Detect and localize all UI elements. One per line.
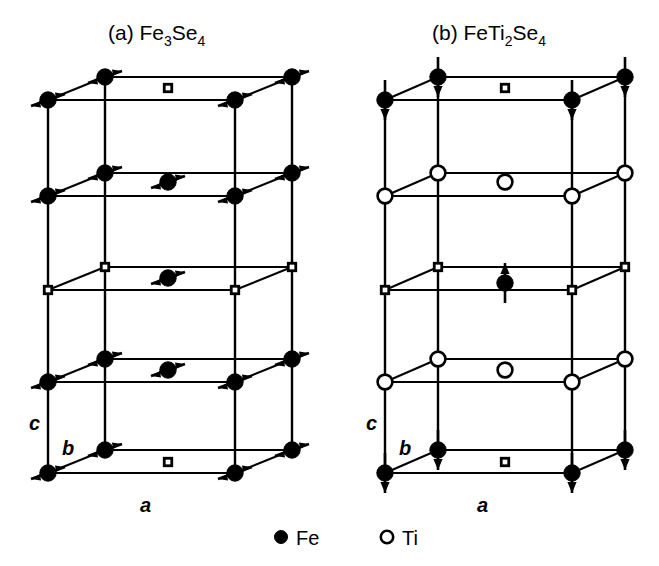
panel-b-site-layer3-back-left-ti-atom	[431, 352, 446, 367]
panel-b-site-layer2-back-right-vacancy-marker	[621, 263, 629, 271]
panel-a-title-part-0: (a) Fe	[108, 21, 164, 44]
panel-a-site-layer3-front-right-fe-atom	[227, 374, 243, 390]
panel-b-site-layer0-front-left-fe-atom	[377, 92, 393, 108]
panel-a-site-layer4-front-right-fe-atom	[227, 465, 243, 481]
panel-a-site-layer0-back-right-fe-atom	[284, 69, 300, 85]
panel-b-site-layer2-front-right-vacancy-marker	[568, 286, 576, 294]
panel-a-axis-b-label: b	[62, 437, 74, 459]
panel-a-site-layer4-back-right-fe-atom	[284, 442, 300, 458]
panel-b-center-site-layer2-fe-atom	[497, 275, 513, 291]
panel-b-title-part-1: 2	[505, 33, 513, 49]
legend-ti-label: Ti	[402, 527, 418, 549]
panel-a-center-site-layer4-vacancy-marker	[164, 458, 172, 466]
panel-a-site-layer4-back-left-fe-atom	[97, 442, 113, 458]
panel-b-site-layer0-front-right-fe-atom	[564, 92, 580, 108]
panel-b-axis-c-label: c	[366, 412, 377, 434]
panel-b-axis-b-label: b	[399, 437, 411, 459]
panel-b-site-layer4-back-right-fe-atom	[617, 442, 633, 458]
panel-a-site-layer1-front-left-fe-atom	[40, 188, 56, 204]
panel-a-site-layer2-front-left-vacancy-marker	[44, 286, 52, 294]
panel-b-site-layer4-front-right-fe-atom	[564, 465, 580, 481]
panel-a-site-layer3-back-left-fe-atom	[97, 351, 113, 367]
panel-b-site-layer1-back-left-ti-atom	[431, 166, 446, 181]
panel-b-site-layer4-front-left-fe-atom	[377, 465, 393, 481]
panel-a-site-layer1-front-right-fe-atom	[227, 188, 243, 204]
panel-a-title-part-2: Se	[172, 21, 198, 44]
panel-b-site-layer0-back-left-fe-atom	[430, 69, 446, 85]
panel-a-site-layer4-front-left-fe-atom	[40, 465, 56, 481]
panel-a-axis-c-label: c	[29, 412, 40, 434]
crystal-structure-figure: (a) Fe3Se4 (b) FeTi2Se4 c b a c b a Fe T	[0, 0, 659, 566]
panel-a-site-layer2-back-right-vacancy-marker	[288, 263, 296, 271]
panel-a-title-part-1: 3	[164, 33, 172, 49]
panel-a-center-site-layer0-vacancy-marker	[164, 84, 172, 92]
panel-b-site-layer4-back-left-fe-atom	[430, 442, 446, 458]
panel-a-title-part-3: 4	[198, 33, 206, 49]
panel-a-center-site-layer3-fe-atom	[160, 362, 176, 378]
panel-b-site-layer3-front-right-ti-atom	[565, 375, 580, 390]
panel-a-center-site-layer2-fe-atom	[160, 270, 176, 286]
panel-a-site-layer3-front-left-fe-atom	[40, 374, 56, 390]
panel-b-site-layer1-back-right-ti-atom	[618, 166, 633, 181]
panel-a-axis-a-label: a	[140, 494, 151, 516]
panel-b-title-part-2: Se	[513, 21, 539, 44]
panel-b-center-site-layer4-vacancy-marker	[501, 458, 509, 466]
panel-a-site-layer1-back-left-fe-atom	[97, 165, 113, 181]
panel-a-site-layer0-front-left-fe-atom	[40, 92, 56, 108]
panel-a-site-layer2-back-left-vacancy-marker	[101, 263, 109, 271]
panel-b-center-site-layer0-vacancy-marker	[501, 84, 509, 92]
figure-root: (a) Fe3Se4 (b) FeTi2Se4 c b a c b a Fe T	[0, 0, 659, 566]
legend-fe-label: Fe	[296, 527, 319, 549]
panel-a-site-layer0-back-left-fe-atom	[97, 69, 113, 85]
panel-a-site-layer3-back-right-fe-atom	[284, 351, 300, 367]
panel-b-site-layer3-back-right-ti-atom	[618, 352, 633, 367]
panel-b-site-layer2-front-left-vacancy-marker	[381, 286, 389, 294]
panel-b-axis-a-label: a	[477, 494, 488, 516]
panel-b-site-layer2-back-left-vacancy-marker	[434, 263, 442, 271]
panel-b-site-layer3-front-left-ti-atom	[378, 375, 393, 390]
panel-b-site-layer1-front-right-ti-atom	[565, 189, 580, 204]
panel-b-center-site-layer3-ti-atom	[498, 363, 513, 378]
panel-b-title-part-3: 4	[538, 33, 546, 49]
panel-a-site-layer0-front-right-fe-atom	[227, 92, 243, 108]
legend-fe-marker-icon	[275, 531, 288, 544]
panel-b-site-layer1-front-left-ti-atom	[378, 189, 393, 204]
panel-a-site-layer2-front-right-vacancy-marker	[231, 286, 239, 294]
panel-b-site-layer0-back-right-fe-atom	[617, 69, 633, 85]
legend-ti-marker-icon	[381, 531, 393, 543]
panel-b-center-site-layer1-ti-atom	[498, 175, 513, 190]
figure-background	[0, 0, 659, 566]
panel-a-center-site-layer1-fe-atom	[160, 174, 176, 190]
panel-a-site-layer1-back-right-fe-atom	[284, 165, 300, 181]
panel-b-title-part-0: (b) FeTi	[432, 21, 505, 44]
